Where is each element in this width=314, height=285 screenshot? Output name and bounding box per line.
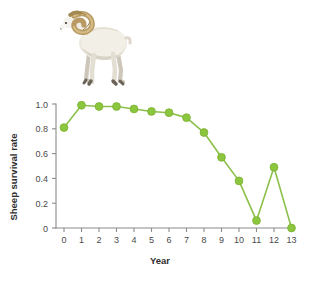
- y-tick-label: 0.4: [35, 174, 48, 184]
- y-tick-label: 0.2: [35, 199, 48, 209]
- x-axis: 0 1 2 3 4 5 6 7 8 9 10 11 12 13: [56, 228, 297, 245]
- x-tick-label: 9: [219, 235, 224, 245]
- sheep-eye: [65, 22, 67, 24]
- x-tick-label: 5: [149, 235, 154, 245]
- data-point: [288, 224, 296, 232]
- bighorn-sheep-illustration: [58, 2, 150, 90]
- figure-container: Sheep survival rate Year 1.0 0.8 0.6 0.4: [0, 0, 314, 285]
- x-tick-label: 10: [234, 235, 244, 245]
- survival-rate-markers: [60, 101, 295, 232]
- y-tick-label: 0.6: [35, 149, 48, 159]
- data-point: [183, 114, 191, 122]
- x-tick-label: 11: [252, 235, 261, 245]
- data-point: [235, 177, 243, 185]
- data-point: [218, 153, 226, 161]
- y-tick-label: 0.8: [35, 124, 48, 134]
- data-point: [113, 103, 121, 111]
- data-point: [165, 109, 173, 117]
- y-tick-label: 0: [43, 224, 48, 234]
- x-tick-label: 12: [269, 235, 279, 245]
- x-tick-labels: 0 1 2 3 4 5 6 7 8 9 10 11 12 13: [61, 235, 296, 245]
- y-axis: 1.0 0.8 0.6 0.4 0.2 0: [35, 100, 56, 234]
- x-tick-label: 8: [201, 235, 206, 245]
- y-tick-labels: 1.0 0.8 0.6 0.4 0.2 0: [35, 100, 48, 234]
- x-tick-label: 4: [131, 235, 136, 245]
- data-point: [200, 129, 208, 137]
- x-axis-title: Year: [150, 255, 170, 266]
- x-tick-label: 13: [286, 235, 296, 245]
- x-tick-marks: [64, 228, 292, 232]
- survival-rate-line: [64, 105, 292, 228]
- data-point: [270, 163, 278, 171]
- x-tick-label: 7: [184, 235, 189, 245]
- y-tick-label: 1.0: [35, 100, 48, 110]
- x-tick-label: 3: [114, 235, 119, 245]
- data-point: [130, 105, 138, 113]
- y-axis-title: Sheep survival rate: [8, 133, 19, 220]
- x-tick-label: 1: [79, 235, 84, 245]
- x-tick-label: 6: [166, 235, 171, 245]
- data-point: [60, 124, 68, 132]
- sheep-drawing: [58, 2, 150, 90]
- y-tick-marks: [52, 104, 56, 228]
- chart-svg: Sheep survival rate Year 1.0 0.8 0.6 0.4: [0, 92, 314, 285]
- data-point: [95, 103, 103, 111]
- survival-rate-line-chart: Sheep survival rate Year 1.0 0.8 0.6 0.4: [0, 92, 314, 285]
- x-tick-label: 2: [96, 235, 101, 245]
- data-point: [253, 217, 261, 225]
- data-point: [78, 101, 86, 109]
- x-tick-label: 0: [61, 235, 66, 245]
- data-point: [148, 108, 156, 116]
